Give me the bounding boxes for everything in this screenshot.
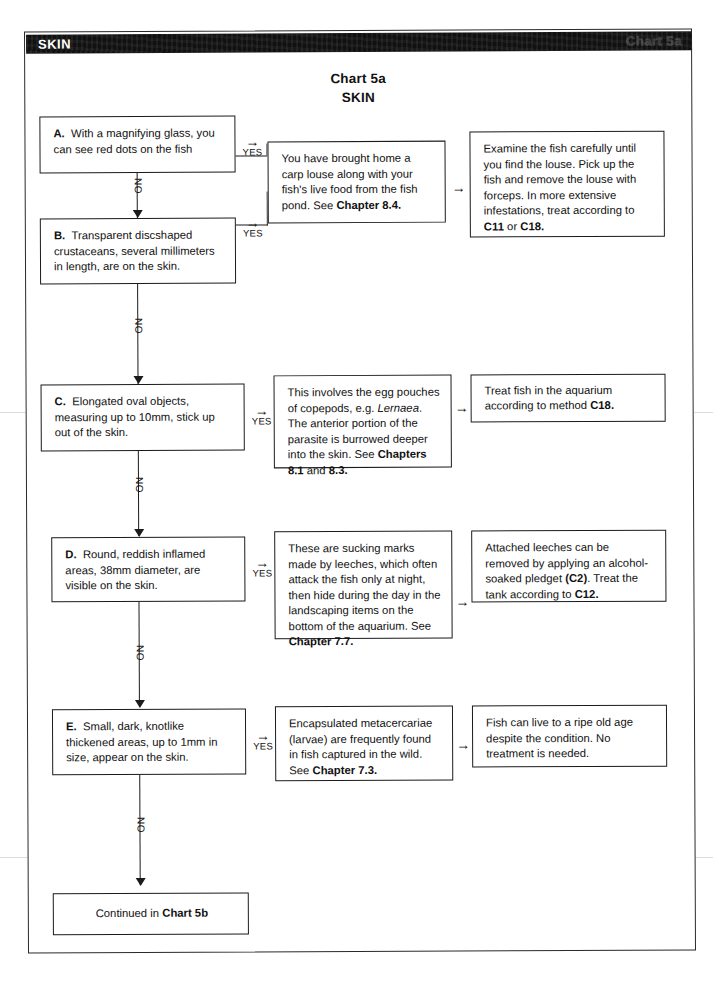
treatment-box-d[interactable]: Attached leeches can be removed by apply… [471, 530, 666, 603]
question-box-e[interactable]: E. Small, dark, knotlike thickened areas… [52, 708, 246, 775]
arrow-right-icon: → [235, 137, 269, 146]
question-box-a[interactable]: A. With a magnifying glass, you can see … [39, 116, 235, 174]
question-text-b: Transparent discshaped crustaceans, seve… [54, 229, 215, 273]
no-arrowhead-a [133, 210, 143, 218]
treatment-box-e[interactable]: Fish can live to a ripe old age despite … [472, 705, 667, 768]
treatment-d-part-3: C12. [575, 587, 599, 599]
treatment-e-part-0: Fish can live to a ripe old age despite … [486, 716, 633, 760]
treatment-c-part-1: C18. [590, 399, 614, 411]
continuation-box[interactable]: Continued in Chart 5b [53, 892, 249, 935]
question-letter-b: B. [54, 229, 65, 241]
page-border: Chart 5a SKIN A. With a magnifying glass… [24, 29, 696, 954]
yes-connector-b: → YES [236, 218, 270, 238]
no-label-e: NO [135, 817, 146, 833]
no-arrowhead-c [134, 529, 144, 537]
diagnosis-box-d[interactable]: These are sucking marks made by leeches,… [274, 531, 452, 640]
treatment-box-c[interactable]: Treat fish in the aquarium according to … [470, 374, 665, 423]
continuation-part-1: Chart 5b [162, 907, 208, 919]
arrow-right-icon-e: → [456, 740, 470, 750]
header-band-chart-number: Chart 5a [626, 33, 682, 48]
treatment-box-ab[interactable]: Examine the fish carefully until you fin… [469, 131, 664, 238]
no-line-c [138, 451, 140, 536]
diagnosis-box-e[interactable]: Encapsulated metacercariae (larvae) are … [275, 706, 453, 782]
diagnosis-c-part-1: Lernaea [377, 401, 419, 413]
question-letter-a: A. [53, 127, 64, 139]
treatment-d-part-1: (C2) [565, 572, 587, 584]
question-text-c: Elongated oval objects, measuring up to … [55, 395, 215, 439]
question-letter-d: D. [65, 548, 76, 560]
treatment-ab-part-0: Examine the fish carefully until you fin… [483, 142, 636, 217]
flowchart-canvas: A. With a magnifying glass, you can see … [25, 30, 695, 953]
diagnosis-box-ab[interactable]: You have brought home a carp louse along… [267, 141, 445, 224]
question-text-d: Round, reddish inflamed areas, 38mm diam… [65, 548, 205, 592]
yes-line-a [236, 155, 268, 156]
continuation-part-0: Continued in [96, 907, 163, 919]
no-arrowhead-e [136, 878, 146, 886]
question-letter-c: C. [55, 395, 66, 407]
yes-line-b [236, 224, 268, 225]
diagnosis-d-part-0: These are sucking marks made by leeches,… [288, 542, 440, 632]
no-label-a: NO [133, 178, 144, 194]
question-box-d[interactable]: D. Round, reddish inflamed areas, 38mm d… [51, 537, 245, 603]
diagnosis-ab-part-1: Chapter 8.4. [336, 198, 401, 210]
yes-label-b: YES [236, 227, 270, 238]
diagnosis-e-part-1: Chapter 7.3. [312, 763, 377, 775]
arrow-right-icon: → [236, 218, 270, 227]
header-band: SKIN Chart 5a [26, 31, 692, 53]
diagnosis-d-part-1: Chapter 7.7. [289, 635, 354, 647]
no-arrowhead-d [135, 700, 145, 708]
treatment-ab-part-2: or [504, 220, 520, 232]
question-box-c[interactable]: C. Elongated oval objects, measuring up … [41, 384, 245, 452]
header-band-title: SKIN [38, 37, 71, 52]
question-letter-e: E. [66, 720, 77, 732]
question-text-e: Small, dark, knotlike thickened areas, u… [66, 720, 217, 764]
arrow-right-icon-ab: → [452, 183, 466, 193]
treatment-ab-part-3: C18. [520, 220, 544, 232]
diagnosis-c-part-4: and [304, 464, 329, 476]
treatment-ab-part-1: C11 [484, 220, 504, 232]
no-label-b: NO [133, 318, 144, 334]
arrow-right-icon-d: → [455, 597, 469, 607]
diagnosis-box-c[interactable]: This involves the egg pouches of copepod… [273, 375, 451, 469]
diagnosis-c-part-5: 8.3. [329, 464, 348, 476]
no-label-d: NO [135, 645, 146, 661]
arrow-right-icon-c: → [455, 403, 469, 413]
no-label-c: NO [134, 477, 145, 493]
no-arrowhead-b [133, 376, 143, 384]
question-text-a: With a magnifying glass, you can see red… [53, 127, 214, 155]
question-box-b[interactable]: B. Transparent discshaped crustaceans, s… [40, 218, 236, 285]
